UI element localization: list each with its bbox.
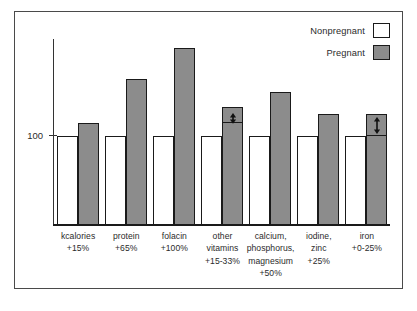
x-axis-label-line: +15-33%: [198, 255, 246, 267]
x-axis-label-line: iron: [343, 230, 391, 242]
bar-group: [150, 39, 198, 224]
bar-group: [54, 39, 102, 224]
range-divider-line: [366, 135, 388, 136]
x-axis-label: iron+0-25%: [343, 230, 391, 280]
x-axis-label: calcium,phosphorus,magnesium+50%: [247, 230, 295, 280]
x-axis-label-line: folacin: [150, 230, 198, 242]
legend-label-nonpregnant: Nonpregnant: [310, 26, 365, 36]
x-axis-label-line: protein: [102, 230, 150, 242]
range-double-headed-arrow-icon: [228, 110, 237, 121]
x-axis-label-line: +0-25%: [343, 242, 391, 254]
bar-group: [246, 39, 294, 224]
bar-nonpregnant: [153, 136, 174, 224]
x-axis-label: protein+65%: [102, 230, 150, 280]
bar-pregnant: [366, 114, 387, 224]
bar-pregnant: [174, 48, 195, 224]
bar-pregnant: [222, 107, 243, 224]
bar-nonpregnant: [57, 136, 78, 224]
bar-pregnant: [78, 123, 99, 224]
bar-nonpregnant: [345, 136, 366, 224]
x-axis-label: othervitamins+15-33%: [198, 230, 246, 280]
x-axis-label-line: vitamins: [198, 242, 246, 254]
range-double-headed-arrow-icon: [372, 117, 381, 134]
x-axis-label: folacin+100%: [150, 230, 198, 280]
x-axis-label-line: +65%: [102, 242, 150, 254]
chart-plot-area: 100: [53, 39, 390, 226]
bar-group: [102, 39, 150, 224]
x-axis-label-line: +25%: [295, 255, 343, 267]
bar-groups: [54, 39, 390, 224]
x-axis-label-line: +15%: [54, 242, 102, 254]
x-axis-labels: kcalories+15% protein+65% folacin+100% o…: [54, 230, 391, 280]
bar-nonpregnant: [249, 136, 270, 224]
x-axis-baseline: [53, 224, 390, 226]
x-axis-label-line: phosphorus,: [247, 242, 295, 254]
x-axis-label-line: iodine,: [295, 230, 343, 242]
chart-figure-frame: Nonpregnant Pregnant 100 kcalories+15% p…: [14, 11, 403, 289]
x-axis-label: kcalories+15%: [54, 230, 102, 280]
x-axis-label-line: other: [198, 230, 246, 242]
bar-nonpregnant: [105, 136, 126, 224]
bar-nonpregnant: [201, 136, 222, 224]
x-axis-label-line: kcalories: [54, 230, 102, 242]
bar-group: [198, 39, 246, 224]
x-axis-label-line: zinc: [295, 242, 343, 254]
bar-group: [342, 39, 390, 224]
bar-pregnant: [126, 79, 147, 224]
legend-swatch-nonpregnant: [373, 23, 390, 38]
x-axis-label-line: +50%: [247, 267, 295, 279]
x-axis-label-line: calcium,: [247, 230, 295, 242]
y-axis-tick-label-100: 100: [27, 130, 43, 141]
x-axis-label: iodine,zinc+25%: [295, 230, 343, 280]
x-axis-label-line: magnesium: [247, 255, 295, 267]
bar-group: [294, 39, 342, 224]
x-axis-label-line: +100%: [150, 242, 198, 254]
bar-pregnant: [270, 92, 291, 224]
bar-pregnant: [318, 114, 339, 224]
legend-item-nonpregnant: Nonpregnant: [310, 23, 390, 38]
bar-nonpregnant: [297, 136, 318, 224]
